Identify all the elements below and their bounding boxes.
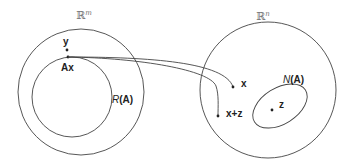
mapping-curves bbox=[68, 57, 233, 116]
label-z: z bbox=[279, 99, 284, 110]
label-ax: Ax bbox=[61, 62, 74, 73]
rm-label: ℝm bbox=[76, 9, 92, 22]
range-label: R(A) bbox=[112, 94, 133, 105]
label-x: x bbox=[241, 78, 247, 89]
space-rm: ℝm R(A) y Ax bbox=[18, 9, 144, 155]
label-x-plus-z: x+z bbox=[226, 108, 242, 119]
linear-map-diagram: ℝm R(A) y Ax ℝn N(A) x x+z z bbox=[0, 0, 345, 167]
rn-label: ℝn bbox=[256, 10, 270, 23]
point-x-plus-z bbox=[217, 115, 220, 118]
space-rn: ℝn N(A) x x+z z bbox=[200, 10, 336, 158]
point-y bbox=[66, 49, 69, 52]
point-x bbox=[232, 86, 235, 89]
curve-ax-to-x bbox=[68, 57, 233, 87]
label-y: y bbox=[63, 36, 69, 47]
point-z bbox=[271, 109, 274, 112]
nullspace-label: N(A) bbox=[283, 74, 304, 85]
rn-circle bbox=[200, 22, 336, 158]
